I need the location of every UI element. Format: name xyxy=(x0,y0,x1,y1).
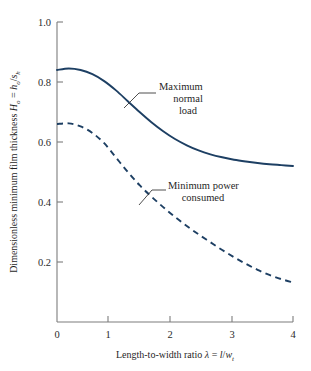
x-tick-labels: 0 1 2 3 4 xyxy=(54,329,296,340)
leader-line-minimum-power-consumed xyxy=(139,190,166,205)
series-line-minimum-power-consumed xyxy=(57,123,293,282)
x-tick-label-4: 4 xyxy=(290,329,296,340)
chart-canvas: 1.0 0.8 0.6 0.4 0.2 0 1 2 3 4 Maximum no… xyxy=(0,0,311,371)
y-axis-title: Dimensionless minimum film thickness Ho … xyxy=(8,71,22,273)
annotation-label-max-load-line2: normal xyxy=(173,93,203,104)
annotation-label-min-power-line2: consumed xyxy=(182,192,225,203)
x-axis-ticks xyxy=(108,316,232,322)
x-tick-label-1: 1 xyxy=(105,329,110,340)
x-axis-title: Length-to-width ratio λ = l/wt xyxy=(116,349,235,363)
annotation-label-max-load-line3: load xyxy=(179,105,198,116)
y-tick-label-0.8: 0.8 xyxy=(38,77,51,88)
x-tick-label-2: 2 xyxy=(167,329,172,340)
y-axis-ticks xyxy=(57,82,63,262)
annotation-maximum-normal-load: Maximum normal load xyxy=(124,81,203,116)
x-tick-label-3: 3 xyxy=(229,329,234,340)
y-axis-title-lead: Dimensionless minimum film thickness xyxy=(8,111,19,273)
y-axis-title-equals: = xyxy=(8,90,19,101)
annotation-minimum-power-consumed: Minimum power consumed xyxy=(139,180,239,205)
y-tick-label-0.4: 0.4 xyxy=(38,197,52,208)
leader-line-maximum-normal-load xyxy=(124,93,156,108)
x-axis-title-lead: Length-to-width ratio xyxy=(116,349,205,360)
annotation-label-max-load-line1: Maximum xyxy=(159,81,203,92)
figure-container: 1.0 0.8 0.6 0.4 0.2 0 1 2 3 4 Maximum no… xyxy=(0,0,311,371)
y-tick-label-0.6: 0.6 xyxy=(38,137,51,148)
x-axis-title-denominator-subscript: t xyxy=(232,355,235,363)
y-axis-title-denominator-subscript: h xyxy=(14,71,22,75)
y-tick-labels: 1.0 0.8 0.6 0.4 0.2 xyxy=(38,17,52,268)
axis-spines xyxy=(57,22,293,322)
y-tick-label-1.0: 1.0 xyxy=(38,17,51,28)
x-tick-label-0: 0 xyxy=(54,329,59,340)
x-axis-title-equals: = xyxy=(209,349,220,360)
y-tick-label-0.2: 0.2 xyxy=(38,257,51,268)
annotation-label-min-power-line1: Minimum power xyxy=(168,180,239,191)
